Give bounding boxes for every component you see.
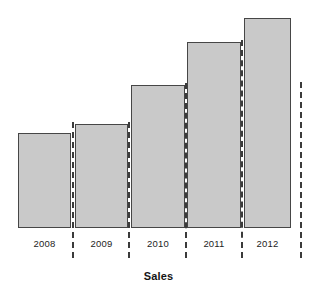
category-separator xyxy=(128,122,130,258)
x-tick-label-2012: 2012 xyxy=(244,238,291,249)
bar-chart: 2008 2009 2010 2011 2012 Sales xyxy=(0,0,317,300)
category-separator xyxy=(241,40,243,258)
x-tick-label-2011: 2011 xyxy=(187,238,241,249)
category-separator xyxy=(185,83,187,258)
category-separator xyxy=(72,122,74,258)
plot-area: 2008 2009 2010 2011 2012 Sales xyxy=(0,0,317,300)
bar-2012 xyxy=(244,18,291,228)
x-axis-title: Sales xyxy=(0,270,317,282)
x-tick-label-2010: 2010 xyxy=(131,238,185,249)
x-tick-label-2008: 2008 xyxy=(18,238,71,249)
bar-2009 xyxy=(75,124,128,228)
bar-2010 xyxy=(131,85,185,228)
x-tick-label-2009: 2009 xyxy=(75,238,128,249)
bar-2011 xyxy=(187,42,241,228)
bar-2008 xyxy=(18,133,71,228)
category-separator xyxy=(300,82,302,258)
